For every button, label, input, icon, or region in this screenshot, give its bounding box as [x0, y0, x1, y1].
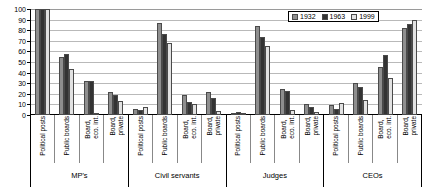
category-label-cluster: Political postsPublic boardsBoard, eco. … — [30, 115, 129, 163]
y-tick-label: 20 — [18, 90, 26, 97]
category-axis: Political postsPublic boardsBoard, eco. … — [30, 115, 422, 163]
bar-category — [251, 9, 276, 115]
category-label-cell: Board, eco. int. — [275, 115, 299, 163]
category-label-cell: Political posts — [227, 115, 251, 163]
bar-cluster — [30, 9, 128, 115]
legend-swatch-icon — [322, 14, 328, 20]
y-axis: 1009080706050403020100 — [0, 0, 30, 115]
y-tick-label: 40 — [18, 69, 26, 76]
category-label: Board, private — [109, 116, 124, 136]
group-label: CEOs — [324, 163, 422, 187]
legend-item: 1963 — [322, 13, 346, 20]
bar-category — [177, 9, 202, 115]
group-label: Judges — [227, 163, 325, 187]
y-tick-label: 90 — [18, 16, 26, 23]
category-label: Public boards — [161, 116, 169, 155]
category-label: Public boards — [63, 116, 71, 155]
bar-category — [79, 9, 104, 115]
bar-category — [300, 9, 325, 115]
category-label: Public boards — [259, 116, 267, 155]
y-tick-label: 70 — [18, 37, 26, 44]
category-label: Political posts — [137, 116, 145, 156]
category-label-cell: Board, eco. int. — [80, 115, 104, 163]
category-label: Board, private — [206, 116, 221, 136]
bar-category — [324, 9, 349, 115]
category-label-cell: Board, private — [398, 115, 421, 163]
bar — [143, 107, 148, 115]
category-label: Board, private — [402, 116, 417, 136]
bar — [265, 46, 270, 115]
category-label: Political posts — [234, 116, 242, 156]
bar — [363, 100, 368, 115]
bar — [69, 69, 74, 115]
bar — [167, 43, 172, 115]
bar-category — [128, 9, 153, 115]
bar — [388, 78, 393, 115]
bar-groups — [30, 9, 422, 115]
category-label-cell: Public boards — [153, 115, 177, 163]
category-label: Board, eco. int. — [377, 116, 392, 139]
bar-category — [398, 9, 423, 115]
y-tick-label: 30 — [18, 80, 26, 87]
y-tick-label: 60 — [18, 48, 26, 55]
bar-cluster — [128, 9, 226, 115]
y-tick-label: 50 — [18, 59, 26, 66]
category-label: Board, eco. int. — [280, 116, 295, 139]
category-label-cell: Public boards — [251, 115, 275, 163]
legend-label: 1963 — [330, 13, 346, 20]
category-label-cell: Board, private — [300, 115, 323, 163]
bar-category — [104, 9, 129, 115]
bar — [192, 104, 197, 115]
category-label-cell: Board, eco. int. — [373, 115, 397, 163]
bar — [89, 81, 94, 115]
category-label-cell: Public boards — [55, 115, 79, 163]
category-label-cell: Board, eco. int. — [178, 115, 202, 163]
legend-swatch-icon — [292, 14, 298, 20]
legend-item: 1999 — [351, 13, 375, 20]
bar-cluster — [226, 9, 324, 115]
group-label: MP's — [30, 163, 129, 187]
legend-swatch-icon — [351, 14, 357, 20]
bar — [45, 9, 50, 115]
group-label: Civil servants — [129, 163, 227, 187]
y-tick-label: 10 — [18, 101, 26, 108]
group-axis: MP'sCivil servantsJudgesCEOs — [30, 163, 422, 187]
legend-label: 1999 — [359, 13, 375, 20]
category-label-cluster: Political postsPublic boardsBoard, eco. … — [129, 115, 227, 163]
bar — [339, 103, 344, 115]
category-label-cell: Public boards — [349, 115, 373, 163]
category-label: Board, private — [304, 116, 319, 136]
bar-category — [226, 9, 251, 115]
category-label: Political posts — [39, 116, 47, 156]
bar-category — [275, 9, 300, 115]
category-label-cell: Political posts — [324, 115, 348, 163]
category-label-cell: Board, private — [104, 115, 127, 163]
y-tick-label: 0 — [22, 112, 26, 119]
legend-label: 1932 — [300, 13, 316, 20]
category-label-cluster: Political postsPublic boardsBoard, eco. … — [324, 115, 422, 163]
bar-category — [153, 9, 178, 115]
bar-category — [349, 9, 374, 115]
bar-category — [55, 9, 80, 115]
bar-cluster — [324, 9, 422, 115]
bar-category — [202, 9, 227, 115]
category-label-cell: Political posts — [31, 115, 55, 163]
y-tick-label: 100 — [14, 6, 26, 13]
bar-category — [30, 9, 55, 115]
legend-item: 1932 — [292, 13, 316, 20]
bar — [412, 20, 417, 115]
category-label: Board, eco. int. — [84, 116, 99, 139]
grouped-bar-chart: 1009080706050403020100 Political postsPu… — [0, 0, 429, 189]
bar-category — [373, 9, 398, 115]
category-label-cluster: Political postsPublic boardsBoard, eco. … — [227, 115, 325, 163]
y-tick-label: 80 — [18, 27, 26, 34]
category-label: Board, eco. int. — [182, 116, 197, 139]
category-label-cell: Board, private — [202, 115, 225, 163]
category-label-cell: Political posts — [129, 115, 153, 163]
category-label: Public boards — [357, 116, 365, 155]
legend: 193219631999 — [288, 11, 379, 22]
category-label: Political posts — [332, 116, 340, 156]
bar — [118, 101, 123, 115]
